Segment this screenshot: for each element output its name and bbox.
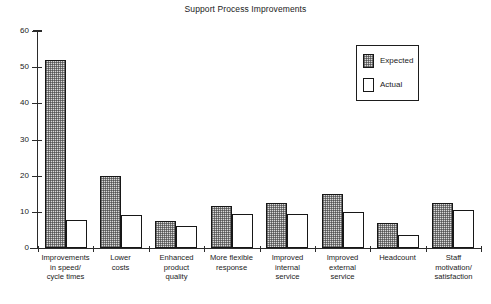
- bar-expected-2: [155, 221, 176, 248]
- legend-label-expected: Expected: [380, 57, 413, 65]
- bar-expected-6: [377, 223, 398, 248]
- bar-actual-4: [287, 214, 308, 248]
- bar-actual-1: [121, 215, 142, 248]
- legend-swatch-expected-icon: [363, 54, 374, 68]
- bar-expected-5: [322, 194, 343, 248]
- x-tick-1: [93, 246, 94, 252]
- bar-actual-7: [453, 210, 474, 248]
- x-category-label-7: Staff motivation/ satisfaction: [420, 253, 487, 282]
- y-tick-10: [32, 212, 42, 213]
- y-tick-label-10: 10: [6, 208, 29, 216]
- y-tick-50: [32, 67, 42, 68]
- x-tick-4: [260, 246, 261, 252]
- x-tick-6: [370, 246, 371, 252]
- bar-actual-3: [232, 214, 253, 248]
- legend-entry-actual: Actual: [363, 78, 402, 92]
- x-tick-5: [315, 246, 316, 252]
- x-tick-2: [149, 246, 150, 252]
- y-tick-label-30: 30: [6, 136, 29, 144]
- y-tick-0: [32, 248, 42, 249]
- x-axis-line: [30, 248, 481, 249]
- y-tick-60: [32, 31, 42, 32]
- chart-title: Support Process Improvements: [0, 4, 491, 14]
- chart-legend: Expected Actual: [356, 45, 419, 101]
- bar-actual-0: [66, 220, 87, 248]
- x-tick-7: [426, 246, 427, 252]
- bar-expected-1: [100, 176, 121, 248]
- legend-entry-expected: Expected: [363, 54, 413, 68]
- y-tick-40: [32, 103, 42, 104]
- y-tick-label-40: 40: [6, 99, 29, 107]
- y-tick-label-50: 50: [6, 63, 29, 71]
- y-tick-30: [32, 140, 42, 141]
- x-tick-3: [204, 246, 205, 252]
- legend-swatch-actual-icon: [363, 78, 374, 92]
- bar-actual-5: [343, 212, 364, 248]
- x-tick-0: [38, 246, 39, 252]
- bar-actual-6: [398, 235, 419, 248]
- y-tick-label-0: 0: [6, 244, 29, 252]
- bar-expected-4: [266, 203, 287, 248]
- y-tick-label-20: 20: [6, 172, 29, 180]
- bar-chart: Support Process Improvements 01020304050…: [0, 0, 491, 304]
- bar-expected-0: [45, 60, 66, 248]
- y-tick-label-60: 60: [6, 27, 29, 35]
- bar-actual-2: [176, 226, 197, 248]
- x-tick-8: [481, 246, 482, 252]
- y-tick-20: [32, 176, 42, 177]
- bar-expected-3: [211, 206, 232, 248]
- bar-expected-7: [432, 203, 453, 248]
- legend-label-actual: Actual: [380, 81, 402, 89]
